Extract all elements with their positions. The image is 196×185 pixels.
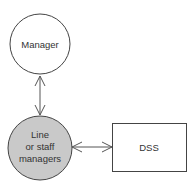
diagram-canvas: Manager Line or staff managers DSS (0, 0, 196, 185)
edge-manager-line-staff (35, 76, 45, 115)
line-staff-label-line3: managers (19, 153, 61, 164)
manager-label: Manager (21, 39, 59, 50)
line-staff-label-line2: or staff (26, 141, 55, 152)
dss-label: DSS (139, 142, 159, 153)
diagram-svg: Manager Line or staff managers DSS (0, 0, 196, 185)
node-manager: Manager (10, 14, 70, 74)
node-dss: DSS (113, 124, 187, 172)
line-staff-label-line1: Line (31, 129, 49, 140)
node-line-staff-managers: Line or staff managers (8, 116, 72, 180)
edge-line-staff-dss (72, 142, 112, 152)
